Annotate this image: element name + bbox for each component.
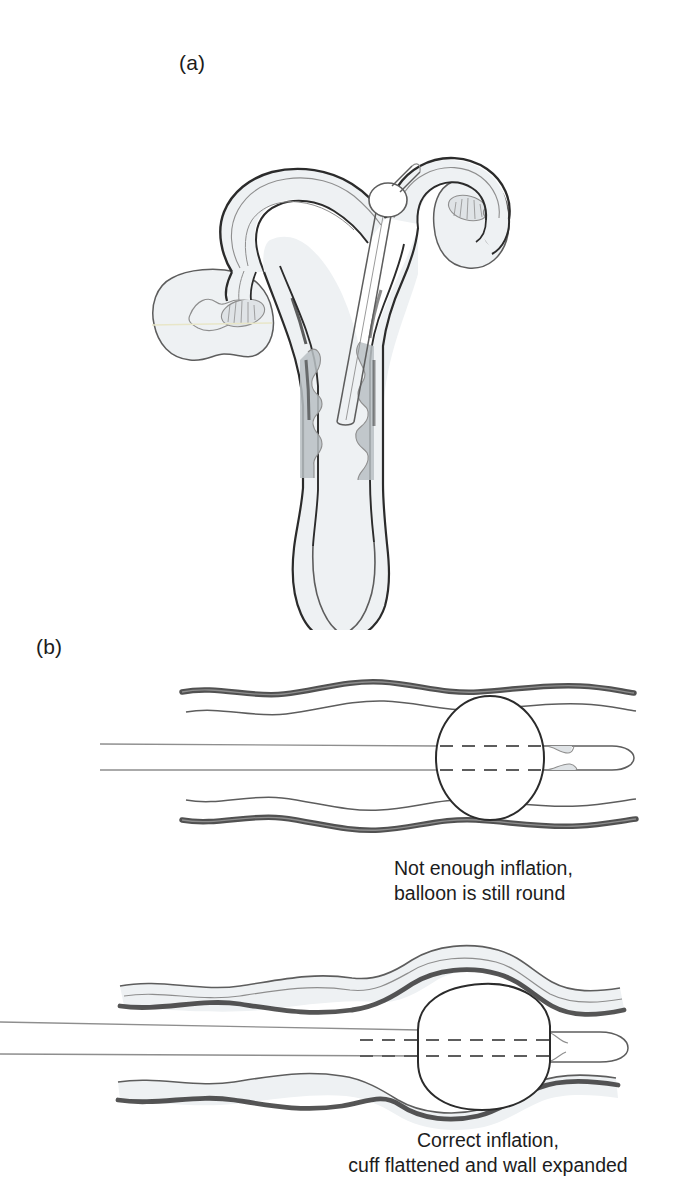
upper-tube-wall (182, 682, 636, 715)
left-ovary (152, 269, 273, 360)
correct-inflation-caption: Correct inflation, cuff flattened and wa… (327, 1128, 649, 1178)
lower-tube-wall (182, 797, 636, 830)
catheter-shaft (100, 744, 438, 770)
uterus-anatomy-illustration (0, 60, 677, 630)
balloon-flattened (360, 984, 552, 1110)
under-inflated-balloon-diagram (0, 660, 677, 850)
caption-line-2: cuff flattened and wall expanded (327, 1153, 649, 1178)
under-inflated-caption: Not enough inflation, balloon is still r… (394, 856, 573, 906)
catheter-tip (543, 746, 634, 770)
caption-line-1: Correct inflation, (327, 1128, 649, 1153)
panel-b-label: (b) (36, 636, 62, 657)
uterine-body (263, 228, 418, 630)
balloon-round (436, 696, 545, 820)
caption-line-2: balloon is still round (394, 881, 573, 906)
caption-line-1: Not enough inflation, (394, 856, 573, 881)
figure-root: (a) (0, 0, 677, 1197)
catheter-shaft (0, 1022, 420, 1056)
correct-inflation-balloon-diagram (0, 930, 677, 1130)
catheter-balloon (369, 183, 407, 217)
catheter-tip (548, 1032, 628, 1062)
upper-tube-wall-expanded (120, 946, 624, 1015)
